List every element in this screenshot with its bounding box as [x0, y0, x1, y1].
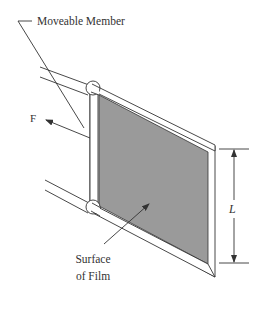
upper-fixed-rails [40, 67, 89, 95]
surface-label-line1: Surface [75, 253, 110, 265]
lower-fixed-rails [45, 180, 89, 213]
soap-film-diagram: Moveable Member F L Surface of Film [0, 0, 256, 310]
force-arrow [46, 120, 90, 138]
surface-label-line2: of Film [76, 270, 110, 282]
moveable-member [90, 88, 98, 206]
top-slider-ring [86, 81, 100, 95]
moveable-member-label: Moveable Member [37, 15, 125, 27]
moveable-member-leader [18, 21, 84, 128]
length-label: L [228, 202, 236, 216]
force-label: F [30, 112, 36, 124]
bottom-slider-ring [86, 200, 101, 216]
